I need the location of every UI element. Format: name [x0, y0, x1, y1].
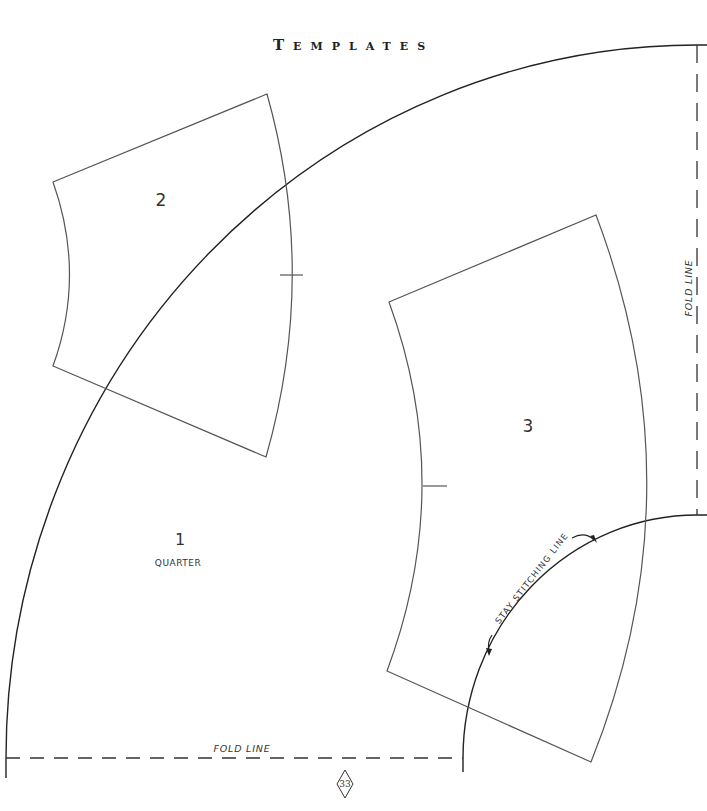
stitching-arrow-end — [572, 535, 594, 540]
template-3-outline — [387, 215, 647, 762]
quarter-inner-arc — [463, 515, 707, 772]
template-3-number: 3 — [523, 416, 534, 436]
template-2-number: 2 — [156, 190, 167, 210]
vertical-fold-label: FOLD LINE — [683, 260, 694, 317]
horizontal-fold-label: FOLD LINE — [214, 743, 271, 754]
pattern-page: Templates 2 3 1 QUARTER FOLD LINE FOLD L… — [0, 0, 707, 811]
stay-stitching-label: STAY STITCHING LINE — [493, 531, 570, 626]
template-2-outline — [53, 94, 292, 457]
pattern-drawing: 2 3 1 QUARTER FOLD LINE FOLD LINE STAY S… — [0, 0, 707, 811]
quarter-label: QUARTER — [155, 558, 201, 568]
quarter-number: 1 — [175, 530, 185, 549]
page-number: 33 — [337, 774, 353, 794]
quarter-outer-arc — [6, 45, 707, 778]
